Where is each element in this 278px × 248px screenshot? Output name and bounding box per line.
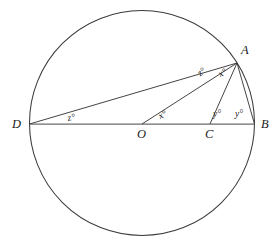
angle-label-y-at-C: y°: [213, 110, 221, 120]
geometry-canvas: [0, 0, 278, 248]
geometry-figure: A B C O D z° z° x° x° y° y°: [0, 0, 278, 248]
angle-label-z-at-D: z°: [67, 113, 76, 124]
point-label-O: O: [137, 128, 146, 141]
point-label-B: B: [261, 118, 269, 131]
angle-label-y-at-B: y°: [235, 110, 243, 120]
point-label-D: D: [12, 118, 21, 131]
point-label-C: C: [205, 128, 213, 141]
main-circle: [30, 11, 255, 236]
point-label-A: A: [241, 44, 249, 57]
